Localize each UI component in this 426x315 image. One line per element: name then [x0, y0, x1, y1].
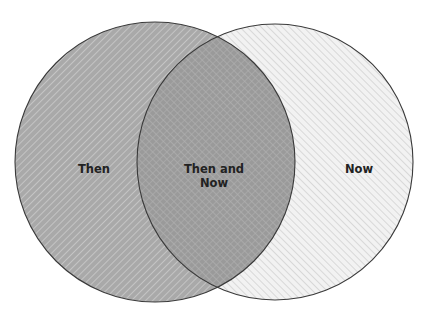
venn-diagram: [0, 0, 426, 315]
now-label: Now: [336, 162, 382, 176]
then-and-now-label-line1: Then and: [173, 162, 255, 176]
then-label: Then: [64, 162, 124, 176]
then-and-now-label-line2: Now: [173, 176, 255, 190]
then-and-now-label: Then and Now: [173, 162, 255, 190]
